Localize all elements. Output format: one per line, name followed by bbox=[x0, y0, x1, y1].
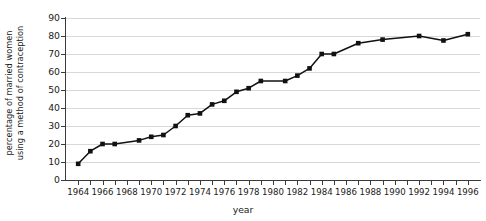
series-line bbox=[78, 34, 468, 164]
data-point-1992 bbox=[417, 34, 422, 39]
data-point-1989 bbox=[380, 37, 385, 42]
data-point-1967 bbox=[112, 142, 117, 147]
data-point-1985 bbox=[332, 52, 337, 57]
data-series bbox=[0, 0, 486, 221]
data-point-1974 bbox=[198, 111, 203, 116]
data-point-1981 bbox=[283, 79, 288, 84]
data-point-1973 bbox=[185, 113, 190, 118]
data-point-1972 bbox=[173, 124, 178, 129]
data-point-1984 bbox=[319, 52, 324, 57]
data-point-1982 bbox=[295, 73, 300, 78]
data-point-1987 bbox=[356, 41, 361, 46]
data-point-1964 bbox=[76, 162, 81, 167]
contraception-usage-line-chart: percentage of married women using a meth… bbox=[0, 0, 486, 221]
data-point-1978 bbox=[246, 86, 251, 91]
data-point-1994 bbox=[441, 38, 446, 43]
series-markers bbox=[76, 32, 470, 166]
data-point-1979 bbox=[259, 79, 264, 84]
data-point-1971 bbox=[161, 133, 166, 138]
data-point-1970 bbox=[149, 135, 154, 140]
data-point-1975 bbox=[210, 102, 215, 107]
x-axis-title: year bbox=[0, 205, 486, 215]
data-point-1996 bbox=[466, 32, 471, 37]
data-point-1983 bbox=[307, 66, 312, 71]
data-point-1977 bbox=[234, 90, 239, 95]
data-point-1966 bbox=[100, 142, 105, 147]
data-point-1969 bbox=[137, 138, 142, 143]
data-point-1965 bbox=[88, 149, 93, 154]
data-point-1976 bbox=[222, 99, 227, 104]
